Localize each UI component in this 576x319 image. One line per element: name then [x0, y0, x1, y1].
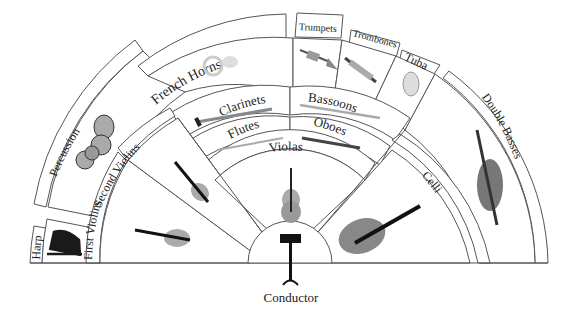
tuba-icon — [403, 72, 419, 96]
label-harp: Harp — [29, 235, 45, 260]
orchestra-seating-diagram: French Horns Percussion Second Violins F… — [0, 0, 576, 319]
label-trumpets: Trumpets — [299, 21, 338, 34]
label-conductor: Conductor — [264, 290, 320, 305]
